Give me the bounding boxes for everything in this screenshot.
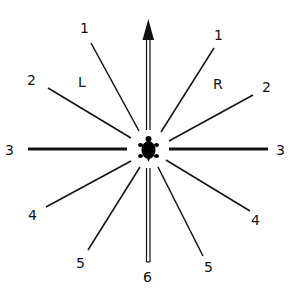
label-down-6: 6 — [143, 269, 152, 285]
label-side-left: L — [78, 74, 86, 90]
label-right-5: 5 — [204, 259, 213, 275]
ray-right-5 — [158, 167, 203, 256]
ray-right-1 — [161, 48, 214, 132]
ray-left-2 — [48, 88, 131, 138]
label-left-4: 4 — [28, 207, 37, 223]
ray-right-2 — [169, 95, 253, 141]
label-right-3: 3 — [276, 142, 285, 158]
label-left-3: 3 — [5, 142, 14, 158]
ray-down-6 — [147, 168, 151, 262]
label-left-2: 2 — [27, 72, 36, 88]
turtle-direction-diagram: 1 2 3 4 5 6 5 4 3 2 1 L R — [0, 0, 304, 299]
label-left-1: 1 — [80, 20, 89, 36]
ray-right-4 — [166, 160, 250, 211]
ray-left-4 — [46, 161, 131, 207]
label-right-4: 4 — [251, 212, 260, 228]
label-side-right: R — [213, 76, 223, 92]
label-right-2: 2 — [262, 79, 271, 95]
label-right-1: 1 — [214, 27, 223, 43]
up-arrow — [143, 19, 155, 130]
label-left-5: 5 — [76, 255, 85, 271]
turtle-icon — [138, 136, 159, 162]
